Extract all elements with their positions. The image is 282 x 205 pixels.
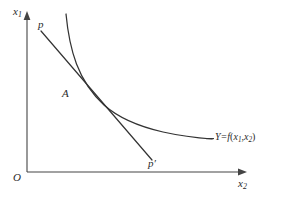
y-axis-label-subscript: 1 bbox=[18, 10, 22, 19]
isoquant-curve bbox=[66, 14, 212, 139]
horizontal-axis-arrowhead bbox=[238, 169, 247, 176]
origin-label: O bbox=[13, 172, 21, 183]
curve-label-prefix: Y= bbox=[215, 131, 227, 142]
vertical-axis-arrowhead bbox=[24, 11, 31, 20]
tangency-point-label: A bbox=[62, 88, 69, 99]
y-axis-label: x1 bbox=[13, 6, 22, 19]
x-axis-label: x2 bbox=[238, 178, 247, 191]
price-tangent-line bbox=[41, 31, 152, 160]
isoquant-figure: x1 x2 O p p′ A Y=f(x1,x2) bbox=[0, 0, 282, 205]
curve-label: Y=f(x1,x2) bbox=[215, 132, 255, 144]
price-line-top-label: p bbox=[38, 19, 44, 30]
x-axis-label-subscript: 2 bbox=[243, 182, 247, 191]
curve-label-close-paren: ) bbox=[252, 131, 255, 142]
price-line-bottom-label: p′ bbox=[148, 158, 156, 169]
diagram-canvas bbox=[0, 0, 282, 205]
